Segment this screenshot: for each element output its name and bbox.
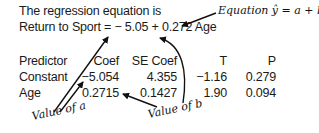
arrow-value-b-equation-icon	[160, 38, 185, 103]
annotation-arrows	[0, 0, 319, 133]
arrow-value-b-table-icon	[123, 94, 157, 107]
arrow-equation-icon	[182, 13, 216, 26]
arrow-value-a-equation-icon	[54, 37, 108, 112]
